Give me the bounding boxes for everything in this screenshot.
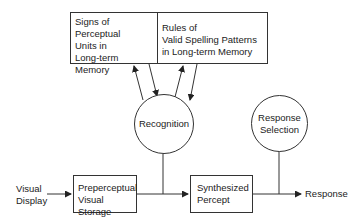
synthesized-line-2: Percept: [197, 194, 248, 206]
signs-line-4: Long-term Memory: [75, 52, 153, 76]
synthesized-percept-box: Synthesized Percept: [190, 175, 253, 213]
synthesized-line-1: Synthesized: [197, 182, 248, 194]
rules-line-2: Valid Spelling Patterns: [162, 34, 263, 46]
visual-display-line-1: Visual: [16, 183, 47, 195]
response-selection-line-2: Selection: [258, 124, 301, 136]
response-selection-node: Response Selection: [251, 95, 308, 152]
recognition-node: Recognition: [134, 94, 194, 154]
response-selection-line-1: Response: [258, 112, 301, 124]
rules-line-1: Rules of: [162, 22, 263, 34]
preperceptual-line-2: Visual Storage: [78, 194, 132, 218]
signs-line-3: Units in: [75, 40, 153, 52]
visual-display-label: Visual Display: [16, 183, 47, 207]
preperceptual-line-1: Preperceptual: [78, 182, 132, 194]
response-output-label: Response: [305, 188, 348, 200]
recognition-label: Recognition: [139, 118, 189, 130]
signs-memory-box: Signs of Perceptual Units in Long-term M…: [70, 12, 158, 64]
signs-line-1: Signs of: [75, 16, 153, 28]
preperceptual-storage-box: Preperceptual Visual Storage: [73, 175, 137, 213]
visual-display-line-2: Display: [16, 195, 47, 207]
rules-line-3: in Long-term Memory: [162, 46, 263, 58]
rules-memory-box: Rules of Valid Spelling Patterns in Long…: [157, 12, 268, 64]
signs-line-2: Perceptual: [75, 28, 153, 40]
